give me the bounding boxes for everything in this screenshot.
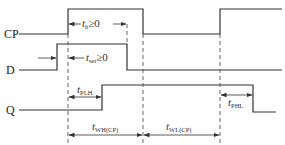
signal-label-d: D xyxy=(6,63,15,77)
signal-label-q: Q xyxy=(6,103,15,117)
hold-time-label: th≥0 xyxy=(82,17,100,30)
tphl-label: tPHL xyxy=(228,96,243,109)
twl-label: tWL(CP) xyxy=(166,120,191,134)
d-waveform xyxy=(19,44,282,70)
signal-label-cp: CP xyxy=(4,27,19,41)
tplh-label: tPLH xyxy=(77,83,93,96)
timing-diagram: CP D Q th≥0 tset≥0 tPLH tPHL tWH(CP) tWL… xyxy=(0,0,285,145)
cp-waveform xyxy=(19,9,282,34)
setup-time-label: tset≥0 xyxy=(86,51,108,64)
twh-label: tWH(CP) xyxy=(92,120,118,134)
